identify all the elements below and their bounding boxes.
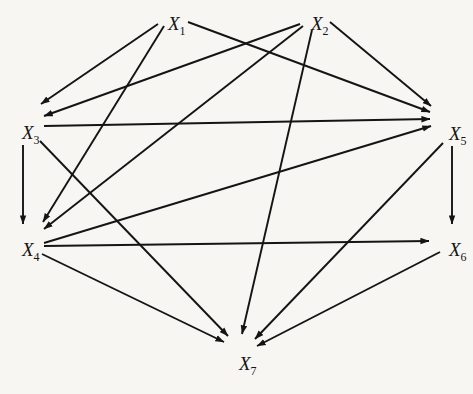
edge-x2-to-x4 — [44, 26, 303, 229]
node-subscript-x5: 5 — [461, 134, 467, 148]
edge-x6-to-x7 — [257, 252, 440, 346]
node-label-x1: X1 — [168, 14, 186, 37]
edges-group — [23, 22, 452, 346]
node-subscript-x2: 2 — [323, 24, 329, 38]
node-base-x6: X — [449, 239, 461, 260]
node-label-x2: X2 — [311, 14, 329, 37]
node-subscript-x6: 6 — [461, 250, 467, 264]
node-subscript-x7: 7 — [251, 364, 257, 378]
edge-x1-to-x5 — [188, 22, 430, 112]
node-base-x5: X — [449, 123, 461, 144]
node-label-x5: X5 — [449, 124, 467, 147]
node-subscript-x1: 1 — [180, 24, 186, 38]
edge-x4-to-x6 — [44, 241, 429, 246]
node-base-x3: X — [22, 122, 34, 143]
edge-x3-to-x5 — [44, 119, 430, 126]
node-label-x7: X7 — [239, 354, 257, 377]
node-subscript-x4: 4 — [34, 250, 40, 264]
node-base-x1: X — [168, 13, 180, 34]
node-base-x4: X — [22, 239, 34, 260]
edge-x2-to-x7 — [242, 30, 312, 334]
node-label-x6: X6 — [449, 240, 467, 263]
edge-x3-to-x7 — [40, 141, 228, 336]
node-subscript-x3: 3 — [34, 133, 40, 147]
node-base-x2: X — [311, 13, 323, 34]
node-base-x7: X — [239, 353, 251, 374]
node-label-x3: X3 — [22, 123, 40, 146]
edge-x2-to-x3 — [44, 24, 300, 116]
graph-edges-svg — [0, 0, 473, 394]
diagram-canvas: X1X2X3X5X4X6X7 — [0, 0, 473, 394]
edge-x4-to-x7 — [42, 254, 224, 342]
node-label-x4: X4 — [22, 240, 40, 263]
